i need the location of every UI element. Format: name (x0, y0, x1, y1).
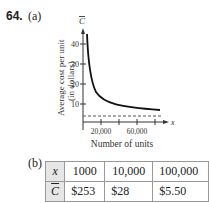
table-row-x: x 1000 10,000 100,000 (46, 162, 209, 182)
svg-text:60,000: 60,000 (127, 127, 148, 136)
table-cell: 1000 (65, 162, 105, 182)
row-header-c: C (46, 182, 65, 202)
row-header-x: x (46, 162, 65, 182)
part-b-label: (b) (28, 156, 42, 171)
svg-text:40: 40 (71, 40, 79, 49)
values-table: x 1000 10,000 100,000 C $253 $28 $5.50 (45, 161, 209, 202)
y-axis-label: Average cost per unit (56, 39, 66, 116)
cost-chart: Average cost per unit (in dollars) C 40 … (0, 0, 209, 150)
table-cell: $28 (105, 182, 153, 202)
table-cell: 10,000 (105, 162, 153, 182)
table-row-c: C $253 $28 $5.50 (46, 182, 209, 202)
svg-text:20: 20 (71, 80, 79, 89)
x-axis-label: Number of units (91, 139, 154, 149)
y-axis-symbol: C (79, 16, 86, 26)
table-cell: $253 (65, 182, 105, 202)
svg-text:20,000: 20,000 (91, 127, 112, 136)
table-cell: $5.50 (153, 182, 209, 202)
x-axis-symbol: x (170, 118, 175, 127)
table-cell: 100,000 (153, 162, 209, 182)
svg-text:10: 10 (71, 100, 79, 109)
svg-text:30: 30 (71, 60, 79, 69)
